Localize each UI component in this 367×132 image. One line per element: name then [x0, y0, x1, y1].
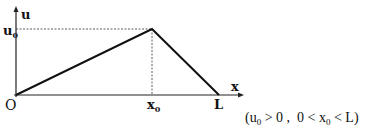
x-axis-label: x — [231, 80, 239, 93]
end-label: L — [214, 98, 223, 111]
u0-label: u0 — [3, 24, 18, 37]
origin-label: O — [5, 98, 16, 112]
y-axis-label: u — [21, 8, 30, 21]
condition-text: (u0 > 0 , 0 < x0 < L) — [245, 110, 359, 126]
triangle-curve — [16, 29, 219, 95]
y-axis-arrow-icon — [14, 6, 19, 12]
x0-label: x0 — [147, 98, 160, 111]
